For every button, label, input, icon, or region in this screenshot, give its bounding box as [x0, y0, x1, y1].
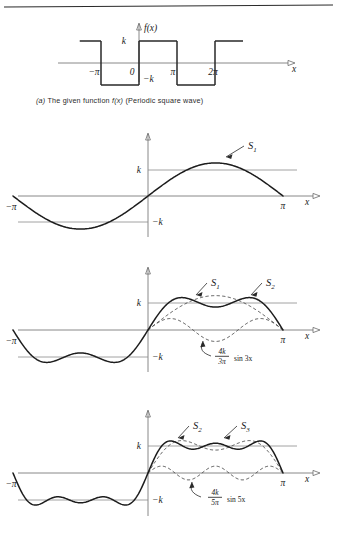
- panel-c-label-neg-k: −k: [152, 352, 163, 362]
- panel-a-label-x-axis: x: [291, 64, 297, 74]
- panel-d-harmonic-numerator: 4k: [211, 488, 219, 497]
- panel-c-den-text: 3π: [217, 357, 226, 366]
- panel-d-label-k: k: [137, 441, 142, 451]
- panel-c-s2: S1 S2 4k 3π sin 3x k −k −π π x: [5, 267, 320, 372]
- panel-c-label-s2: S2: [266, 277, 275, 291]
- panel-a-label-neg-pi: −π: [88, 67, 99, 77]
- panel-d-den-text: 5π: [211, 498, 219, 507]
- panel-c-s1-subscript: 1: [216, 283, 220, 291]
- panel-a-label-two-pi: 2π: [208, 67, 218, 77]
- panel-b-label-neg-k: −k: [152, 217, 163, 227]
- panel-b-label-neg-pi: −π: [5, 202, 16, 212]
- panel-a-label-zero: 0: [130, 67, 135, 77]
- panel-a-label-neg-k: −k: [143, 74, 154, 84]
- panel-d-s2-subscript: 2: [198, 426, 202, 434]
- panel-c-label-x-axis: x: [304, 331, 310, 341]
- panel-d-harmonic-label: 4k 5π sin 5x: [208, 488, 245, 507]
- panel-c-harmonic-numerator: 4k: [218, 347, 226, 356]
- panel-c-harmonic-label: 4k 3π sin 3x: [215, 347, 252, 366]
- caption-before: The given function: [45, 96, 112, 105]
- panel-c-label-s1: S1: [211, 277, 220, 291]
- panel-b-label-pi: π: [281, 201, 286, 211]
- panel-c-label-pi: π: [281, 335, 286, 345]
- panel-b-label-x-axis: x: [304, 197, 310, 207]
- panel-c-s2-subscript: 2: [271, 283, 275, 291]
- panel-a-label-k: k: [122, 36, 127, 46]
- panel-d-label-s2: S2: [193, 420, 202, 434]
- panel-a-caption: (a) The given function f(x) (Periodic sq…: [36, 96, 203, 105]
- panel-d-s3-leader: [224, 426, 237, 438]
- panel-b-s1-subscript: 1: [253, 146, 257, 154]
- panel-d-x-arrow: [313, 470, 320, 475]
- panel-c-x-arrow: [313, 327, 320, 332]
- panel-d-s3-subscript: 3: [245, 426, 250, 434]
- panel-b-x-arrow: [313, 193, 320, 198]
- panel-c-harmonic-rest: sin 3x: [234, 354, 252, 363]
- panel-d-label-s3: S3: [241, 420, 250, 434]
- caption-prefix: (a): [36, 96, 45, 105]
- panel-d-harmonic-denominator: 5π: [211, 498, 219, 507]
- panel-d-num-text: 4k: [211, 488, 219, 497]
- panel-a-square-wave: k −k −π 0 π 2π f(x) x (a) The given func…: [36, 23, 297, 105]
- panel-c-curve-s1: [148, 296, 283, 330]
- panel-d-label-neg-k: −k: [152, 495, 163, 505]
- panel-a-label-fx: f(x): [144, 23, 157, 34]
- panel-d-h5-arrowhead: [189, 482, 194, 488]
- caption-after: (Periodic square wave): [123, 96, 203, 105]
- panel-d-label-pi: π: [281, 478, 286, 488]
- caption-fx: f(x): [112, 96, 123, 105]
- panel-b-label-s1: S1: [248, 140, 257, 154]
- fourier-series-figure: k −k −π 0 π 2π f(x) x (a) The given func…: [0, 0, 337, 533]
- panel-b-label-k: k: [137, 165, 142, 175]
- panel-a-label-pi: π: [171, 67, 176, 77]
- top-rule: [4, 5, 333, 7]
- panel-c-label-k: k: [137, 298, 142, 308]
- panel-d-label-x-axis: x: [304, 474, 310, 484]
- panel-c-harmonic-denominator: 3π: [217, 357, 226, 366]
- panel-b-s1: S1 k −k −π π x: [5, 133, 320, 237]
- panel-c-h3-arrowhead: [200, 341, 205, 347]
- panel-d-s3: S2 S3 4k 5π sin 5x k −k −π π x: [5, 410, 320, 516]
- panel-d-label-neg-pi: −π: [5, 479, 16, 489]
- panel-c-num-text: 4k: [218, 347, 226, 356]
- panel-d-harmonic-rest: sin 5x: [227, 495, 245, 504]
- panel-b-s1-leader: [226, 146, 244, 157]
- panel-c-label-neg-pi: −π: [5, 336, 16, 346]
